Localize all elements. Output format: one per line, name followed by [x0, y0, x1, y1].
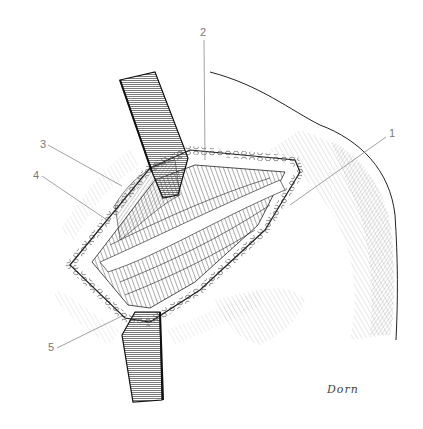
lower-retractor [122, 312, 163, 402]
label-4: 4 [33, 170, 39, 181]
label-3: 3 [40, 139, 46, 150]
anatomical-illustration [0, 0, 423, 429]
label-2: 2 [200, 27, 206, 38]
artist-signature: Dorn [327, 383, 359, 396]
leader-line-2 [204, 40, 205, 160]
label-5: 5 [48, 342, 54, 353]
label-1: 1 [389, 128, 395, 139]
